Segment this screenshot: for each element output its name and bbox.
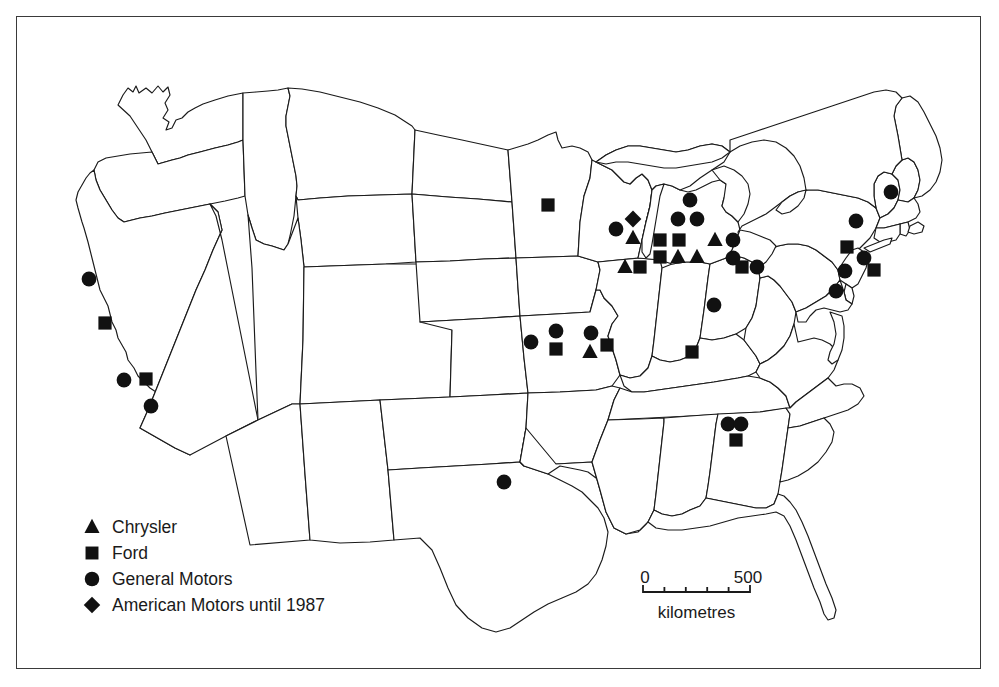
plant-marker-circle — [721, 417, 736, 432]
state-texas — [388, 462, 608, 632]
legend-label-chrysler: Chrysler — [112, 517, 177, 537]
plant-marker-square — [729, 433, 742, 446]
legend-item-ford: Ford — [86, 543, 148, 563]
plant-marker-square — [600, 338, 613, 351]
plant-marker-square — [672, 233, 685, 246]
legend-label-american-motors: American Motors until 1987 — [112, 595, 325, 615]
legend-label-ford: Ford — [112, 543, 148, 563]
plant-marker-circle — [690, 212, 705, 227]
scale-start-label: 0 — [640, 568, 649, 587]
plant-marker-square — [541, 198, 554, 211]
plant-marker-circle — [82, 272, 97, 287]
plant-marker-circle — [683, 193, 698, 208]
plant-marker-circle — [497, 475, 512, 490]
plant-marker-circle — [849, 214, 864, 229]
plant-marker-circle — [829, 284, 844, 299]
plant-marker-circle — [549, 324, 564, 339]
plant-marker-circle — [884, 185, 899, 200]
state-north-dakota — [412, 130, 512, 202]
plant-marker-circle — [750, 260, 765, 275]
plant-marker-square — [653, 233, 666, 246]
plant-marker-square — [840, 240, 853, 253]
plant-marker-diamond — [84, 597, 100, 613]
plant-marker-circle — [857, 251, 872, 266]
legend-label-general-motors: General Motors — [112, 569, 233, 589]
plant-marker-circle — [726, 233, 741, 248]
plant-marker-circle — [609, 222, 624, 237]
state-wyoming — [296, 194, 416, 267]
united-states-map: ChryslerFordGeneral MotorsAmerican Motor… — [0, 0, 999, 687]
chesapeake-bay-outline — [828, 312, 844, 364]
state-boundaries — [76, 86, 942, 632]
plant-marker-circle — [707, 298, 722, 313]
plant-marker-square — [867, 263, 880, 276]
scale-bar: 0500kilometres — [640, 568, 762, 622]
legend-item-general-motors: General Motors — [85, 569, 233, 589]
plant-marker-square — [735, 260, 748, 273]
plant-marker-square — [86, 547, 99, 560]
plant-marker-triangle — [84, 519, 99, 533]
plant-marker-circle — [734, 417, 749, 432]
plant-marker-circle — [144, 399, 159, 414]
plant-marker-circle — [838, 264, 853, 279]
legend-item-chrysler: Chrysler — [84, 517, 177, 537]
plant-marker-circle — [584, 326, 599, 341]
scale-end-label: 500 — [734, 568, 762, 587]
state-south-carolina — [780, 418, 834, 482]
state-new-mexico — [300, 400, 394, 543]
legend-item-american-motors: American Motors until 1987 — [84, 595, 325, 615]
plant-marker-square — [633, 260, 646, 273]
plant-marker-square — [685, 345, 698, 358]
map-figure: ChryslerFordGeneral MotorsAmerican Motor… — [0, 0, 999, 687]
plant-marker-square — [549, 342, 562, 355]
plant-marker-circle — [524, 335, 539, 350]
cape-cod — [908, 222, 924, 234]
plant-marker-circle — [85, 572, 100, 587]
state-oklahoma — [380, 393, 528, 470]
plant-marker-square — [98, 316, 111, 329]
state-montana — [286, 88, 415, 200]
state-south-dakota — [412, 194, 516, 262]
plant-marker-circle — [117, 373, 132, 388]
state-iowa — [516, 256, 600, 316]
plant-marker-circle — [671, 212, 686, 227]
plant-marker-square — [139, 372, 152, 385]
plant-marker-square — [653, 250, 666, 263]
state-nebraska — [416, 258, 520, 322]
scale-unit-label: kilometres — [658, 603, 735, 622]
